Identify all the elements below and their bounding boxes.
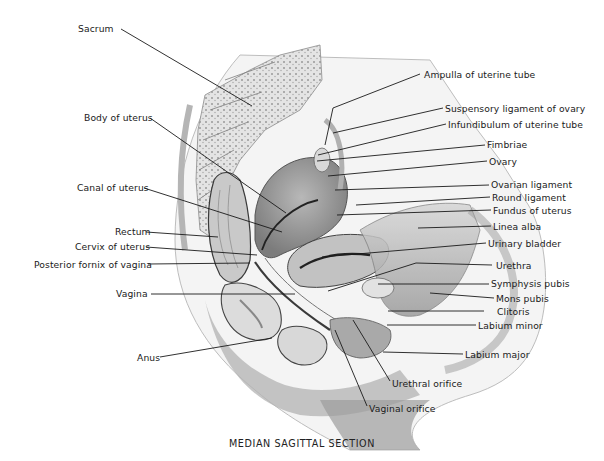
label-urethral-orifice: Urethral orifice	[392, 378, 462, 389]
label-fundus-of-uterus: Fundus of uterus	[493, 205, 572, 216]
label-fimbriae: Fimbriae	[487, 139, 527, 150]
label-cervix-of-uterus: Cervix of uterus	[75, 241, 150, 252]
label-ovarian-ligament: Ovarian ligament	[491, 179, 572, 190]
label-labium-minor: Labium minor	[478, 320, 543, 331]
label-canal-of-uterus: Canal of uterus	[77, 182, 149, 193]
label-linea-alba: Linea alba	[493, 221, 541, 232]
label-sacrum: Sacrum	[78, 23, 114, 34]
label-posterior-fornix-of-vagina: Posterior fornix of vagina	[34, 259, 152, 270]
symphysis-pubis	[362, 278, 394, 298]
label-vagina: Vagina	[116, 288, 148, 299]
label-round-ligament: Round ligament	[492, 192, 566, 203]
label-labium-major: Labium major	[465, 349, 530, 360]
label-rectum: Rectum	[115, 226, 151, 237]
figure-caption: MEDIAN SAGITTAL SECTION	[0, 438, 604, 449]
label-anus: Anus	[137, 352, 160, 363]
label-symphysis-pubis: Symphysis pubis	[491, 278, 570, 289]
label-vaginal-orifice: Vaginal orifice	[369, 403, 435, 414]
label-ovary: Ovary	[489, 156, 517, 167]
label-clitoris: Clitoris	[497, 306, 530, 317]
label-urinary-bladder: Urinary bladder	[488, 238, 561, 249]
label-suspensory-ligament-of-ovary: Suspensory ligament of ovary	[445, 103, 585, 114]
label-body-of-uterus: Body of uterus	[84, 112, 153, 123]
anatomy-figure: SacrumBody of uterusCanal of uterusRectu…	[0, 0, 604, 461]
label-mons-pubis: Mons pubis	[496, 293, 549, 304]
label-urethra: Urethra	[496, 260, 532, 271]
label-ampulla-of-uterine-tube: Ampulla of uterine tube	[424, 69, 535, 80]
label-infundibulum-of-uterine-tube: Infundibulum of uterine tube	[448, 119, 583, 130]
